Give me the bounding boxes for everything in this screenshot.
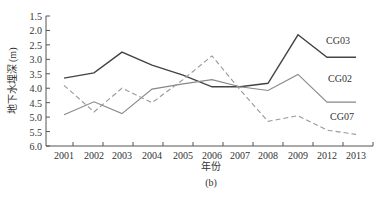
y-tick-label: 3.0 xyxy=(30,54,43,65)
x-tick-label: 2009 xyxy=(288,150,308,161)
series-line-cg02 xyxy=(64,74,356,114)
x-tick-label: 2013 xyxy=(346,150,366,161)
series-label-cg07: CG07 xyxy=(330,111,354,122)
series-label-cg03: CG03 xyxy=(326,35,350,46)
x-tick-label: 2006 xyxy=(202,150,222,161)
series-label-cg02: CG02 xyxy=(328,73,352,84)
x-tick-label: 2007 xyxy=(230,150,250,161)
x-tick-label: 2012 xyxy=(317,150,337,161)
y-tick-label: 3.5 xyxy=(30,69,43,80)
x-tick-label: 2008 xyxy=(258,150,278,161)
y-tick-label: 4.5 xyxy=(30,98,43,109)
y-tick-label: 6.0 xyxy=(30,141,43,152)
series-labels: CG03CG02CG07 xyxy=(326,35,354,122)
series-lines xyxy=(64,35,356,135)
y-axis-label: 地下水埋深 (m) xyxy=(6,48,19,115)
x-tick-label: 2002 xyxy=(84,150,104,161)
line-chart: 1.52.02.53.03.54.04.55.05.56.0 200120022… xyxy=(0,0,388,199)
y-tick-label: 2.5 xyxy=(30,40,43,51)
x-axis-label: 年份 xyxy=(201,160,221,172)
axes xyxy=(46,16,373,146)
x-tick-label: 2005 xyxy=(173,150,193,161)
y-ticks: 1.52.02.53.03.54.04.55.05.56.0 xyxy=(30,11,51,152)
x-ticks: 2001200220032004200520062007200820092012… xyxy=(54,142,373,161)
x-tick-label: 2004 xyxy=(142,150,162,161)
series-line-cg07 xyxy=(64,56,356,134)
figure-caption: (b) xyxy=(205,177,217,189)
x-tick-label: 2001 xyxy=(54,150,74,161)
series-line-cg03 xyxy=(64,35,356,87)
y-tick-label: 1.5 xyxy=(30,11,43,22)
y-tick-label: 4.0 xyxy=(30,83,43,94)
y-tick-label: 2.0 xyxy=(30,25,43,36)
y-tick-label: 5.0 xyxy=(30,112,43,123)
y-tick-label: 5.5 xyxy=(30,127,43,138)
x-tick-label: 2003 xyxy=(112,150,132,161)
